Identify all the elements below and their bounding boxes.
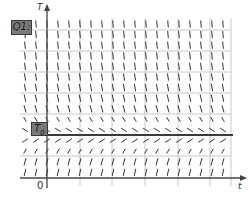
equilibrium-label-t0: T0 — [31, 122, 48, 136]
t0-subscript: 0 — [40, 129, 44, 137]
question-label-q1: Q1: — [11, 20, 32, 35]
grid-lines — [20, 18, 231, 186]
y-axis-label: T — [37, 2, 43, 12]
slope-marks — [23, 21, 226, 176]
slope-field-plot — [0, 0, 248, 197]
T-axis-arrow-icon — [44, 4, 50, 11]
x-axis-label: t — [238, 181, 242, 191]
origin-label: 0 — [37, 180, 43, 191]
